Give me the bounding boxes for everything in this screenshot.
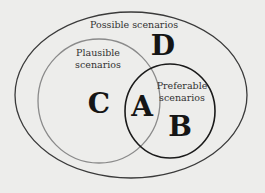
scenarios-venn-diagram: Possible scenarios D Plausible scenarios… bbox=[0, 0, 265, 193]
plausible-scenarios-label-line1: Plausible bbox=[76, 47, 120, 58]
plausible-scenarios-label-line2: scenarios bbox=[75, 59, 121, 70]
region-d-letter: D bbox=[151, 29, 175, 62]
preferable-scenarios-label-line2: scenarios bbox=[159, 92, 205, 103]
region-c-letter: C bbox=[88, 87, 110, 120]
region-a-letter: A bbox=[130, 90, 154, 123]
region-b-letter: B bbox=[168, 110, 192, 143]
preferable-scenarios-label-line1: Preferable bbox=[157, 80, 208, 91]
